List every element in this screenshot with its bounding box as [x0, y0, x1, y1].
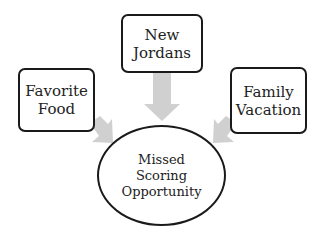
node-label-line: New — [133, 26, 191, 44]
node-label-line: Jordans — [133, 44, 191, 62]
node-label-line: Food — [25, 100, 88, 118]
node-missed-scoring-opportunity: Missed Scoring Opportunity — [97, 125, 226, 226]
arrow-new-jordans — [144, 73, 180, 121]
node-label-line: Favorite — [25, 82, 88, 100]
node-new-jordans: New Jordans — [121, 14, 203, 73]
node-favorite-food: Favorite Food — [18, 68, 95, 132]
node-label-line: Family — [236, 83, 301, 101]
node-label-line: Opportunity — [121, 184, 201, 200]
node-label-line: Scoring — [121, 168, 201, 184]
node-family-vacation: Family Vacation — [230, 67, 307, 134]
diagram-canvas: New Jordans Favorite Food Family Vacatio… — [0, 0, 326, 236]
node-label-line: Vacation — [236, 101, 301, 119]
node-label-line: Missed — [121, 152, 201, 168]
